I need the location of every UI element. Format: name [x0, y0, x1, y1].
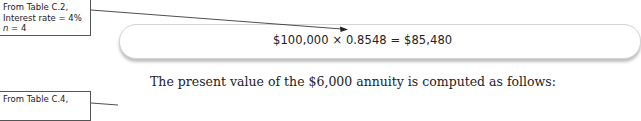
callout-table-c2: From Table C.2, Interest rate = 4% n = 4 — [0, 0, 91, 36]
callout-line: From Table C.4, — [3, 94, 86, 105]
callout-line-1 — [91, 10, 342, 29]
present-value-formula: $100,000 × 0.8548 = $85,480 — [273, 33, 452, 47]
callout-line: n = 4 — [3, 23, 86, 34]
callout-value: = 4 — [8, 23, 26, 33]
callout-table-c4: From Table C.4, — [0, 91, 91, 121]
arrowhead-icon — [340, 27, 348, 33]
callout-line-2 — [91, 103, 118, 105]
callout-line: From Table C.2, — [3, 2, 86, 13]
callout-line: Interest rate = 4% — [3, 13, 86, 24]
body-sentence: The present value of the $6,000 annuity … — [150, 74, 556, 89]
